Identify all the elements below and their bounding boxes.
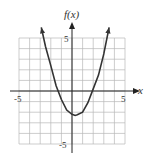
x-min-tick-label: -5	[14, 95, 22, 104]
x-axis-label: x	[138, 85, 143, 96]
function-graph	[0, 0, 152, 157]
y-max-tick-label: 5	[64, 35, 69, 44]
parabola-curve	[41, 27, 109, 115]
x-max-tick-label: 5	[121, 95, 126, 104]
y-axis-label: f(x)	[64, 9, 79, 20]
y-min-tick-label: -5	[59, 141, 67, 150]
curve-arrowheads	[40, 27, 110, 33]
